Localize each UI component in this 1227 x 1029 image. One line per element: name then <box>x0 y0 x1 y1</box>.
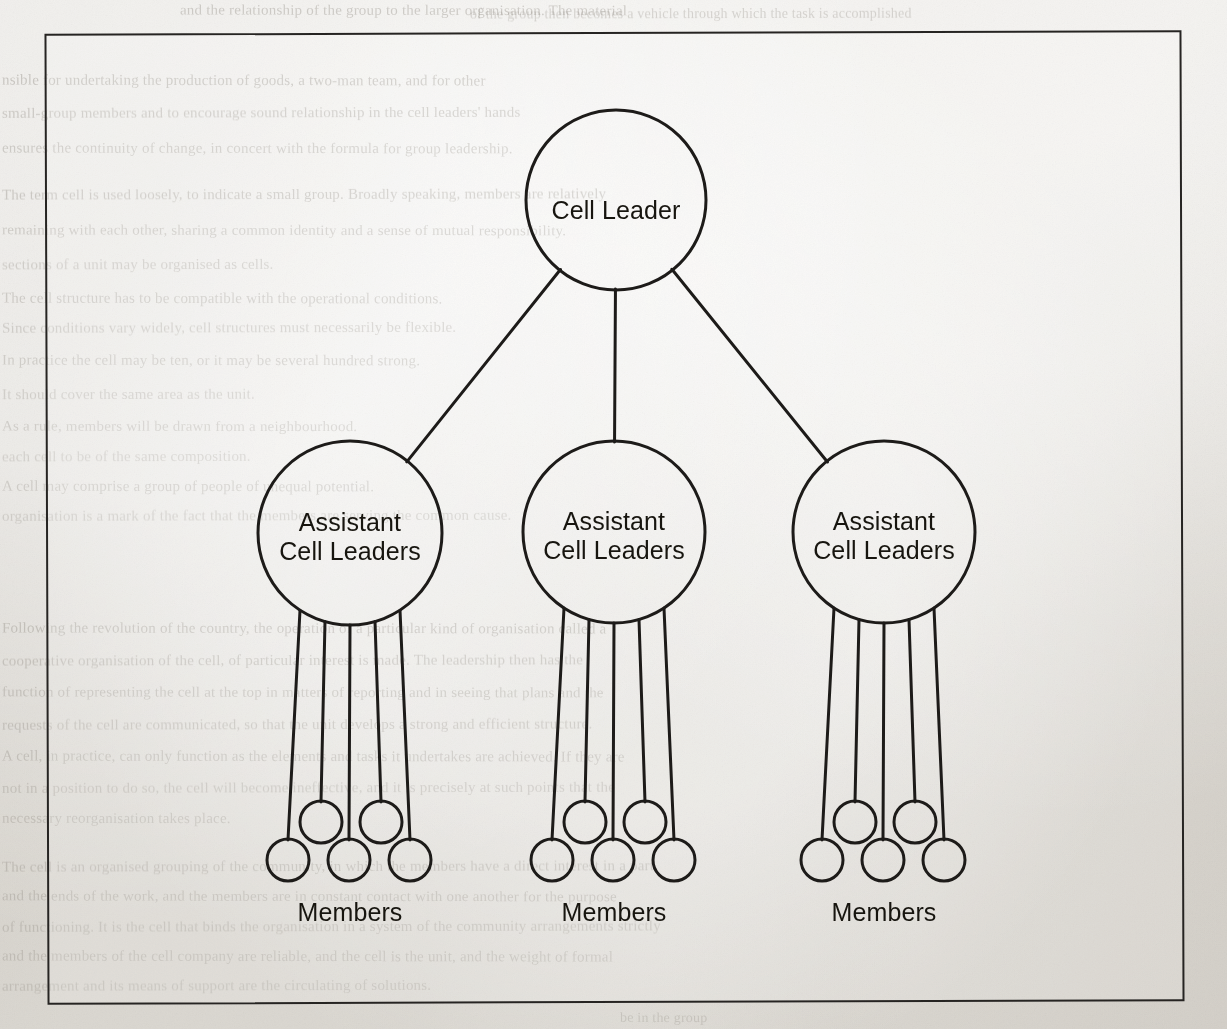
figure-border <box>44 30 1184 1005</box>
bleed-through-line: and the relationship of the group to the… <box>180 2 627 19</box>
bleed-through-line: of the group then becomes a vehicle thro… <box>470 6 912 23</box>
scanned-page: and the relationship of the group to the… <box>0 0 1227 1029</box>
bleed-through-line: be in the group <box>620 1010 707 1026</box>
